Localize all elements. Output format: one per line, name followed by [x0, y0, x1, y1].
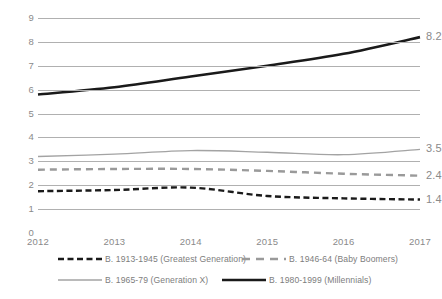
y-axis-tick-label: 6: [8, 85, 34, 95]
y-axis-tick-label: 8: [8, 37, 34, 47]
legend-label: B. 1980-1999 (Millennials): [269, 275, 371, 285]
legend-item[interactable]: B. 1980-1999 (Millennials): [222, 275, 371, 285]
gridline: [38, 66, 420, 67]
legend-item[interactable]: B. 1965-79 (Generation X): [58, 275, 208, 285]
gridline: [38, 161, 420, 162]
gridline: [38, 185, 420, 186]
series-line-baby-boomers: [38, 169, 420, 176]
gridline: [38, 90, 420, 91]
series-layer: [38, 18, 420, 233]
legend-swatch-icon: [242, 254, 286, 264]
legend-row: B. 1965-79 (Generation X)B. 1980-1999 (M…: [0, 275, 429, 295]
x-axis-tick-label: 2014: [180, 236, 202, 247]
y-axis-tick-label: 7: [8, 61, 34, 71]
x-axis: 201220132014201520162017: [38, 236, 420, 250]
legend-swatch-icon: [222, 275, 266, 285]
y-axis-tick-label: 3: [8, 156, 34, 166]
gridline: [38, 114, 420, 115]
legend-row: B. 1913-1945 (Greatest Generation)B. 194…: [0, 254, 429, 274]
legend-label: B. 1965-79 (Generation X): [105, 275, 208, 285]
y-axis-tick-label: 2: [8, 180, 34, 190]
series-end-label-greatest-generation: 1.4: [426, 193, 442, 205]
y-axis-tick-label: 1: [8, 204, 34, 214]
gridline: [38, 209, 420, 210]
y-axis-tick-label: 5: [8, 109, 34, 119]
legend-label: B. 1913-1945 (Greatest Generation): [105, 254, 246, 264]
y-axis: 0123456789: [2, 18, 34, 233]
y-axis-tick-label: 4: [8, 132, 34, 142]
y-axis-tick-label: 9: [8, 13, 34, 23]
legend-item[interactable]: B. 1913-1945 (Greatest Generation): [58, 254, 246, 264]
x-axis-tick-label: 2013: [103, 236, 125, 247]
x-axis-tick-label: 2012: [27, 236, 49, 247]
x-axis-tick-label: 2015: [256, 236, 278, 247]
legend: B. 1913-1945 (Greatest Generation)B. 194…: [0, 254, 429, 299]
x-axis-tick-label: 2017: [409, 236, 431, 247]
series-end-label-millennials: 8.2: [426, 30, 442, 42]
gridline: [38, 137, 420, 138]
legend-swatch-icon: [58, 275, 102, 285]
series-end-label-baby-boomers: 2.4: [426, 169, 442, 181]
x-axis-tick-label: 2016: [333, 236, 355, 247]
gridline: [38, 18, 420, 19]
plot-area: [38, 18, 420, 233]
legend-label: B. 1946-64 (Baby Boomers): [289, 254, 398, 264]
legend-item[interactable]: B. 1946-64 (Baby Boomers): [242, 254, 398, 264]
series-line-generation-x: [38, 149, 420, 156]
legend-swatch-icon: [58, 254, 102, 264]
gridline: [38, 42, 420, 43]
series-end-label-generation-x: 3.5: [426, 142, 442, 154]
series-line-greatest-generation: [38, 187, 420, 199]
